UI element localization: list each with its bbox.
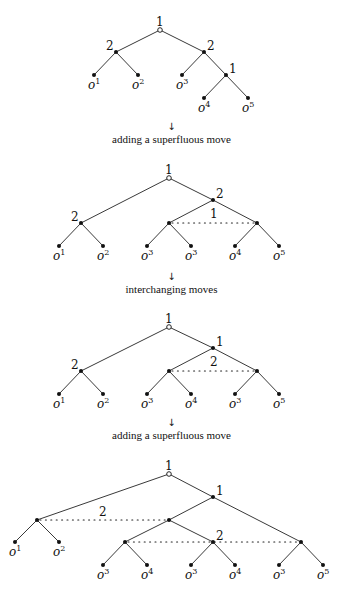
tree-edge — [147, 223, 169, 246]
tree-edge — [169, 348, 213, 371]
outcome-label: o4 — [141, 567, 153, 582]
decision-node-icon — [211, 198, 215, 202]
decision-node-icon — [167, 369, 171, 373]
tree-edge — [116, 30, 160, 52]
tree-edge — [191, 542, 213, 565]
outcome-label: o1 — [53, 248, 65, 263]
player-label: 2 — [71, 210, 79, 224]
tree-edge — [59, 371, 81, 394]
information-set-player-label: 1 — [210, 207, 218, 221]
tree-edge — [37, 520, 59, 542]
player-label: 1 — [216, 335, 224, 349]
step-caption-3: adding a superfluous move — [0, 429, 343, 441]
outcome-label: o3 — [273, 567, 285, 582]
step-caption-2: interchanging moves — [0, 283, 343, 295]
outcome-label: o5 — [273, 248, 285, 263]
outcome-label: o1 — [88, 77, 100, 92]
tree-edge — [81, 223, 103, 246]
outcome-label: o5 — [273, 396, 285, 411]
tree-edge — [182, 52, 204, 75]
tree-edge — [204, 75, 226, 98]
tree-edge — [169, 520, 213, 542]
outcome-label: o4 — [198, 100, 210, 115]
game-tree-1: 1221o1o2o3o4o5 — [88, 15, 254, 115]
outcome-label: o2 — [97, 248, 109, 263]
player-label: 1 — [165, 163, 173, 177]
player-label: 2 — [71, 358, 79, 372]
decision-node-icon — [79, 369, 83, 373]
tree-edge — [301, 542, 323, 565]
tree-edge — [257, 223, 279, 246]
player-label: 1 — [229, 62, 237, 76]
tree-edge — [226, 75, 248, 98]
game-tree-3: 2121o1o2o3o4o3o5 — [53, 312, 285, 411]
player-label: 1 — [156, 15, 164, 29]
outcome-label: o1 — [9, 544, 21, 559]
tree-edge — [169, 371, 191, 394]
information-set-player-label: 2 — [99, 505, 107, 519]
decision-node-icon — [224, 73, 228, 77]
outcome-label: o2 — [53, 544, 65, 559]
decision-node-icon — [114, 50, 118, 54]
tree-edge — [169, 474, 213, 497]
outcome-label: o3 — [141, 248, 153, 263]
game-tree-2: 1122o1o2o3o3o4o5 — [53, 163, 285, 263]
tree-edge — [204, 52, 226, 75]
tree-edge — [169, 497, 213, 520]
outcome-label: o4 — [185, 396, 197, 411]
outcome-label: o3 — [185, 567, 197, 582]
tree-edge — [257, 371, 279, 394]
outcome-label: o4 — [229, 248, 241, 263]
outcome-label: o3 — [176, 77, 188, 92]
tree-edge — [15, 520, 37, 542]
decision-node-icon — [211, 346, 215, 350]
game-tree-4: 2112o1o2o3o4o3o4o3o5 — [9, 459, 329, 582]
information-set-player-label: 2 — [210, 355, 218, 369]
outcome-label: o1 — [53, 396, 65, 411]
tree-edge — [81, 327, 169, 371]
outcome-label: o3 — [97, 567, 109, 582]
outcome-label: o3 — [185, 248, 197, 263]
outcome-label: o2 — [97, 396, 109, 411]
decision-node-icon — [211, 495, 215, 499]
tree-edge — [125, 520, 169, 542]
decision-node-icon — [202, 50, 206, 54]
tree-edge — [147, 371, 169, 394]
tree-edge — [81, 371, 103, 394]
tree-edge — [103, 542, 125, 565]
player-label: 2 — [106, 39, 114, 53]
decision-node-icon — [35, 518, 39, 522]
player-label: 1 — [216, 484, 224, 498]
tree-edge — [94, 52, 116, 75]
down-arrow-icon: ↓ — [0, 417, 343, 428]
decision-node-icon — [255, 221, 259, 225]
player-label: 1 — [165, 312, 173, 326]
down-arrow-icon: ↓ — [0, 121, 343, 132]
player-label: 2 — [216, 529, 224, 543]
player-label: 1 — [165, 459, 173, 473]
decision-node-icon — [167, 221, 171, 225]
player-label: 2 — [216, 187, 224, 201]
tree-edge — [169, 178, 213, 200]
outcome-label: o2 — [132, 77, 144, 92]
tree-edge — [160, 30, 204, 52]
decision-node-icon — [211, 540, 215, 544]
outcome-label: o5 — [317, 567, 329, 582]
tree-edge — [213, 200, 257, 223]
tree-edge — [279, 542, 301, 565]
decision-node-icon — [255, 369, 259, 373]
decision-node-icon — [123, 540, 127, 544]
outcome-label: o3 — [141, 396, 153, 411]
tree-edge — [125, 542, 147, 565]
decision-node-icon — [167, 518, 171, 522]
tree-edge — [59, 223, 81, 246]
outcome-label: o5 — [242, 100, 254, 115]
tree-edge — [116, 52, 138, 75]
tree-edge — [235, 371, 257, 394]
decision-node-icon — [299, 540, 303, 544]
tree-edge — [213, 497, 301, 542]
tree-edge — [213, 348, 257, 371]
decision-node-icon — [79, 221, 83, 225]
tree-edge — [235, 223, 257, 246]
tree-edge — [213, 542, 235, 565]
